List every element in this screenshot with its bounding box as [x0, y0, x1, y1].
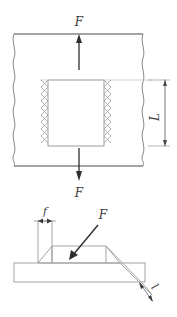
break-line-left	[13, 34, 15, 166]
length-label: L	[148, 113, 162, 122]
figure-canvas: F F L	[0, 0, 177, 317]
break-line-right	[142, 34, 144, 166]
iso-force-arrow	[69, 225, 98, 260]
iso-view-svg: f F l	[0, 197, 177, 317]
weld-hatch-left	[41, 80, 48, 143]
leg-label: l	[149, 281, 162, 292]
thickness-label: f	[42, 205, 49, 218]
vertical-plate	[38, 221, 52, 263]
force-arrow-down	[76, 148, 82, 181]
inner-plate-rect	[48, 80, 104, 146]
iso-force-label: F	[98, 208, 108, 222]
force-top-label: F	[74, 15, 84, 29]
plan-view-svg: F F L	[0, 0, 177, 200]
weld-hatch-right	[104, 80, 111, 143]
length-dimension	[148, 79, 170, 147]
thickness-dimension	[34, 219, 56, 224]
force-arrow-up	[76, 34, 82, 70]
